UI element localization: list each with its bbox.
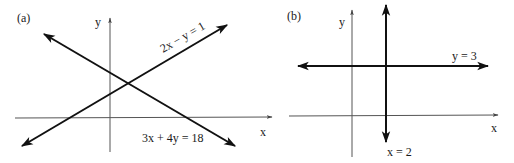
- panel-a-line-2x-minus-y: [22, 25, 227, 146]
- panel-a: (a) y x 2x − y = 1 3x + 4y = 18: [15, 11, 272, 152]
- panel-a-line2-label: 3x + 4y = 18: [142, 131, 204, 145]
- panel-b-label: (b): [287, 9, 301, 23]
- panel-a-x-axis: [15, 117, 272, 118]
- panel-b-x-axis: [289, 115, 498, 116]
- panel-a-line1-label: 2x − y = 1: [158, 19, 208, 56]
- panel-b-x-label: x: [491, 121, 497, 135]
- panel-a-x-label: x: [260, 125, 266, 139]
- panel-a-line-3x-plus-4y: [44, 34, 235, 146]
- panel-a-y-label: y: [95, 15, 101, 29]
- panel-b-line2-label: x = 2: [387, 145, 412, 159]
- figure: (a) y x 2x − y = 1 3x + 4y = 18 (b) y x …: [0, 0, 514, 163]
- panel-a-label: (a): [17, 11, 30, 25]
- panel-b: (b) y x y = 3 x = 2: [287, 5, 498, 159]
- panel-b-line1-label: y = 3: [452, 49, 477, 63]
- panel-b-y-label: y: [339, 15, 345, 29]
